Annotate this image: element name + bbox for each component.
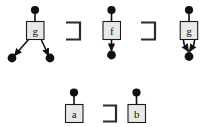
term-graph-g-branching: g: [8, 6, 55, 62]
dot-root-f: [107, 6, 115, 14]
dot-root-g2: [185, 6, 193, 14]
node-label-a: a: [72, 108, 77, 120]
diagram-svg: g ⊐ f ⊐ g: [0, 0, 209, 127]
edge-g2-left-to-shared: [184, 40, 189, 51]
node-label-g1: g: [33, 25, 39, 37]
diagram-canvas: g ⊐ f ⊐ g: [0, 0, 209, 127]
term-graph-f-linear: f: [103, 6, 121, 59]
edge-g2-right-to-shared: [190, 40, 195, 51]
relation-symbol-1: ⊐: [66, 23, 80, 40]
relation-symbol-3: ⊐: [103, 106, 116, 122]
node-label-g2: g: [186, 25, 192, 37]
term-graph-a: a: [66, 88, 84, 122]
dot-g2-shared-child: [185, 52, 194, 61]
dot-root-a: [70, 88, 78, 96]
edge-g1-left: [15, 39, 30, 56]
square-superset-icon-1: [66, 23, 80, 40]
dot-root-b: [132, 88, 140, 96]
term-graph-b: b: [128, 88, 146, 122]
dot-g1-child-left: [8, 54, 17, 63]
node-label-f: f: [110, 25, 114, 37]
dot-g1-child-right: [46, 54, 55, 63]
relation-symbol-2: ⊐: [141, 23, 155, 40]
dot-f-child: [107, 51, 116, 60]
edge-g1-right: [41, 39, 49, 56]
term-graph-g-shared: g: [180, 6, 198, 61]
square-superset-icon-3: [103, 106, 116, 122]
square-superset-icon-2: [141, 23, 155, 40]
node-label-b: b: [134, 108, 140, 120]
dot-root-g1: [31, 6, 39, 14]
